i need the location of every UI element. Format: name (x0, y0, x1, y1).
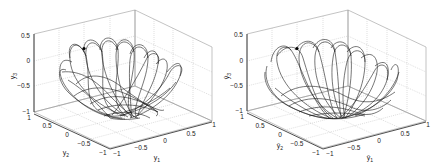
svg-text:0.5: 0.5 (21, 32, 30, 39)
axis-label-y1-left: y1 (154, 154, 161, 163)
svg-text:0.5: 0.5 (255, 122, 264, 129)
svg-text:1: 1 (27, 114, 31, 121)
svg-text:−1: −1 (326, 150, 334, 157)
grid-back-walls (247, 10, 426, 148)
svg-text:−0.5: −0.5 (291, 140, 304, 147)
axes-left (34, 34, 212, 149)
axes-right (247, 34, 426, 149)
svg-text:−0.5: −0.5 (135, 144, 148, 151)
chart-panel-left: 0.5 0 −0.5 −1 1 0.5 0 −0.5 −1 −1 −0.5 0 … (0, 0, 220, 166)
svg-text:1: 1 (212, 121, 216, 128)
svg-text:1: 1 (240, 113, 244, 120)
axis-label-z-left: y3 (9, 73, 18, 80)
trajectory-left (59, 38, 181, 120)
svg-text:0: 0 (278, 131, 282, 138)
z-ticks-right: 0.5 0 −0.5 −1 (230, 31, 243, 114)
plot-3d-right: 0.5 0 −0.5 −1 1 0.5 0 −0.5 −1 −1 −0.5 0 … (219, 0, 439, 166)
svg-text:−1: −1 (113, 150, 121, 157)
svg-text:0: 0 (26, 57, 30, 64)
axis-label-y2-right: ŷ2 (277, 142, 284, 151)
chart-panel-right: 0.5 0 −0.5 −1 1 0.5 0 −0.5 −1 −1 −0.5 0 … (219, 0, 439, 166)
y1-ticks-right: −1 −0.5 0 0.5 1 (326, 121, 430, 157)
svg-text:−0.5: −0.5 (78, 140, 91, 147)
svg-text:−0.5: −0.5 (17, 82, 30, 89)
svg-text:−1: −1 (312, 149, 320, 156)
svg-text:−0.5: −0.5 (348, 144, 361, 151)
svg-text:−0.5: −0.5 (230, 82, 243, 89)
svg-text:0: 0 (239, 57, 243, 64)
axis-label-y1-right: ŷ1 (367, 154, 374, 163)
start-marker-left (82, 47, 85, 50)
y2-ticks-left: 1 0.5 0 −0.5 −1 (27, 114, 107, 156)
y1-ticks-left: −1 −0.5 0 0.5 1 (113, 121, 216, 157)
plot-3d-left: 0.5 0 −0.5 −1 1 0.5 0 −0.5 −1 −1 −0.5 0 … (0, 0, 220, 166)
trajectory-right (265, 39, 399, 118)
svg-text:1: 1 (426, 121, 430, 128)
svg-text:0.5: 0.5 (42, 122, 51, 129)
start-marker-right (295, 47, 298, 50)
svg-text:−1: −1 (99, 149, 107, 156)
grid-back-walls (34, 10, 212, 148)
z-ticks-left: 0.5 0 −0.5 −1 (17, 32, 30, 115)
svg-text:0.5: 0.5 (186, 130, 195, 137)
axis-label-z-right: ŷ3 (223, 73, 232, 80)
svg-text:ŷ3: ŷ3 (223, 73, 232, 80)
svg-text:0.5: 0.5 (400, 130, 409, 137)
axis-label-y2-left: y2 (63, 149, 70, 158)
svg-text:0: 0 (377, 137, 381, 144)
svg-text:0: 0 (163, 137, 167, 144)
svg-text:0.5: 0.5 (234, 31, 243, 38)
svg-text:0: 0 (65, 131, 69, 138)
svg-text:y3: y3 (9, 73, 18, 80)
